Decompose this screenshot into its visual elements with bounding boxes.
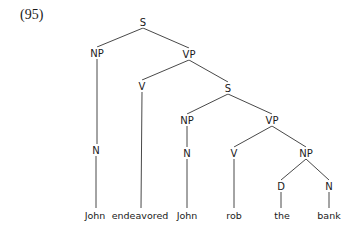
edge-s2-vp bbox=[228, 94, 272, 114]
edge-np3-d bbox=[281, 159, 306, 180]
node-s-embedded: S bbox=[224, 83, 232, 94]
node-n-object: N bbox=[324, 181, 333, 192]
edge-v-endeavored bbox=[141, 92, 142, 208]
word-john-1: John bbox=[84, 210, 107, 221]
edge-vp-s bbox=[189, 60, 228, 82]
node-vp-main: VP bbox=[182, 49, 197, 60]
node-s-root: S bbox=[139, 17, 147, 28]
word-bank: bank bbox=[316, 210, 341, 221]
edge-vp2-np bbox=[272, 126, 306, 147]
node-v-embedded: V bbox=[230, 148, 239, 159]
edge-s-np bbox=[97, 28, 143, 47]
edge-s2-np bbox=[187, 94, 228, 114]
node-np-object: NP bbox=[298, 148, 314, 159]
edge-np3-n bbox=[306, 159, 329, 180]
word-endeavored: endeavored bbox=[111, 210, 170, 221]
edge-s-vp bbox=[143, 28, 189, 48]
word-john-2: John bbox=[176, 210, 199, 221]
edge-vp2-v bbox=[234, 126, 272, 147]
node-vp-embedded: VP bbox=[265, 115, 280, 126]
node-np-embedded: NP bbox=[179, 115, 195, 126]
node-d-object: D bbox=[276, 181, 286, 192]
word-the: the bbox=[273, 210, 291, 221]
node-v-main: V bbox=[138, 81, 147, 92]
word-rob: rob bbox=[225, 210, 243, 221]
node-np-subject: NP bbox=[89, 48, 105, 59]
node-n-subject: N bbox=[91, 145, 100, 156]
edge-vp-v bbox=[142, 60, 189, 80]
node-n-embedded: N bbox=[182, 148, 191, 159]
tree-edges bbox=[0, 0, 356, 233]
